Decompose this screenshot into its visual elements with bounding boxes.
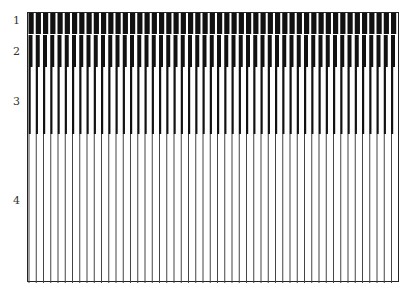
row-label-1: 1: [13, 14, 20, 27]
grating-row-4: [28, 134, 398, 283]
grating-row-2: [28, 35, 398, 67]
grating-row-1: [28, 13, 398, 34]
row-label-3: 3: [13, 95, 20, 108]
grating-frame: [27, 12, 399, 282]
grating-row-3: [28, 67, 398, 134]
row-label-2: 2: [13, 45, 20, 58]
row-label-4: 4: [13, 194, 20, 207]
